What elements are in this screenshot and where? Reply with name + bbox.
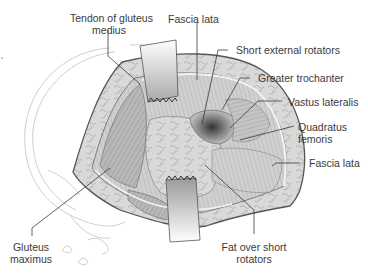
label-fascia-lata-right: Fascia lata <box>309 157 360 169</box>
label-quadratus-femoris: Quadratus femoris <box>298 121 347 145</box>
label-tendon-of-gluteus-medius: Tendon of gluteus medius <box>70 12 148 36</box>
label-line: rotators <box>218 253 290 265</box>
label-fat-over-short-rotators: Fat over short rotators <box>218 241 290 265</box>
anatomical-illustration: Tendon of gluteus medius Fascia lata Sho… <box>0 0 368 274</box>
lower-retractor <box>166 176 200 242</box>
label-line: Gluteus <box>6 241 56 253</box>
label-greater-trochanter: Greater trochanter <box>258 72 344 84</box>
label-line: medius <box>70 24 148 36</box>
label-short-external-rotators: Short external rotators <box>236 44 340 56</box>
label-gluteus-maximus: Gluteus maximus <box>6 241 56 265</box>
stray-dot <box>1 57 3 59</box>
label-line: femoris <box>298 133 347 145</box>
label-line: Fat over short <box>218 241 290 253</box>
label-line: maximus <box>6 253 56 265</box>
label-fascia-lata-top: Fascia lata <box>168 13 219 25</box>
label-line: Quadratus <box>298 121 347 133</box>
label-vastus-lateralis: Vastus lateralis <box>288 96 358 108</box>
label-line: Tendon of gluteus <box>70 12 148 24</box>
